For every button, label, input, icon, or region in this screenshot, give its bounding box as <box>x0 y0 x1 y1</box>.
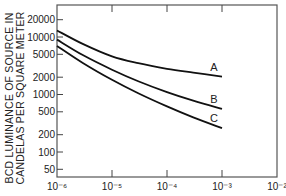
x-tick-label: 10⁻⁵ <box>102 181 122 192</box>
plot-frame <box>57 5 277 177</box>
x-axis-ticks: 10⁻⁶10⁻⁵10⁻⁴10⁻³10⁻² <box>47 5 286 192</box>
y-tick-label: 50 <box>44 164 56 175</box>
x-tick-label: 10⁻⁴ <box>157 181 177 192</box>
curve-label-a: A <box>210 61 218 73</box>
y-tick-label: 10000 <box>27 32 55 43</box>
curve-label-b: B <box>210 93 217 105</box>
y-tick-label: 100 <box>38 147 55 158</box>
y-tick-label: 500 <box>38 106 55 117</box>
x-tick-label: 10⁻⁶ <box>47 181 67 192</box>
curve-b <box>57 40 222 109</box>
x-tick-label: 10⁻² <box>267 181 286 192</box>
y-tick-label: 5000 <box>33 49 56 60</box>
line-chart: 200001000050002000100050020010050 10⁻⁶10… <box>0 0 286 196</box>
y-tick-label: 1000 <box>33 89 56 100</box>
curve-label-c: C <box>210 112 218 124</box>
curve-c <box>57 46 222 128</box>
curves: ABC <box>57 30 222 128</box>
y-tick-label: 200 <box>38 129 55 140</box>
x-tick-label: 10⁻³ <box>212 181 232 192</box>
y-axis-ticks: 200001000050002000100050020010050 <box>27 14 63 175</box>
plot-border <box>57 5 277 177</box>
y-tick-label: 2000 <box>33 72 56 83</box>
y-tick-label: 20000 <box>27 14 55 25</box>
